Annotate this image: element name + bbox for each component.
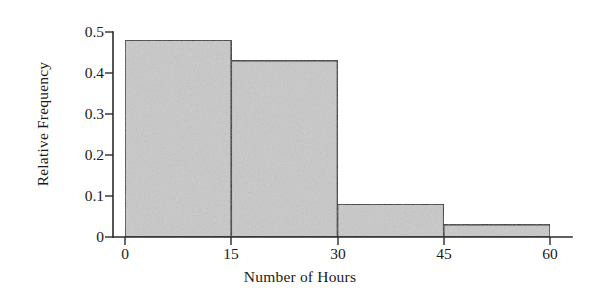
bar-15-30[interactable] <box>231 61 337 237</box>
bar-30-45[interactable] <box>338 204 444 237</box>
plot-area <box>0 0 600 302</box>
bar-series <box>125 40 550 237</box>
x-axis-ticks <box>125 237 550 245</box>
bar-45-60[interactable] <box>444 225 550 237</box>
histogram-figure: Relative Frequency Number of Hours 0.5 0… <box>0 0 600 302</box>
y-axis-ticks <box>105 32 113 237</box>
bar-0-15[interactable] <box>125 40 231 237</box>
